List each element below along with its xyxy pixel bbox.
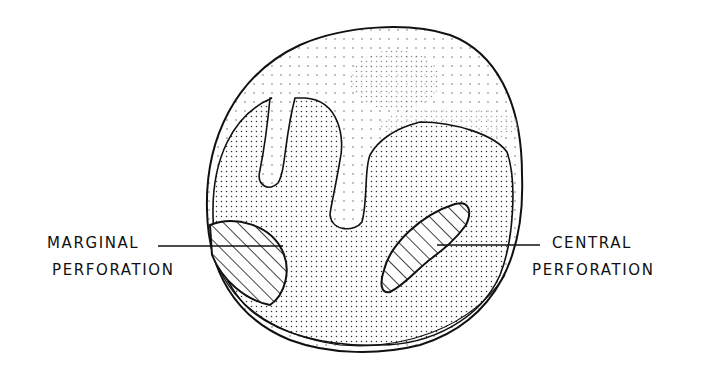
marginal-label-line2: PERFORATION xyxy=(52,261,175,279)
central-label-line1: CENTRAL xyxy=(552,234,632,252)
tympanic-membrane-diagram xyxy=(0,0,701,365)
central-label-line2: PERFORATION xyxy=(532,261,655,279)
marginal-label-line1: MARGINAL xyxy=(47,234,139,252)
